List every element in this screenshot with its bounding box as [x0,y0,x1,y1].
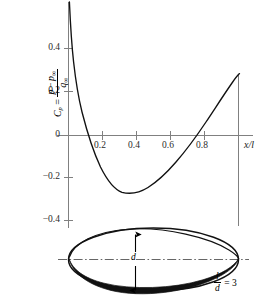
cp-curve [69,2,239,193]
numerator-minus: − [45,82,56,88]
diameter-label: d [131,252,136,262]
x-tick-label-0.6: 0.6 [162,141,174,151]
slenderness-denominator: d [213,283,222,293]
x-axis-label: x/l [244,140,254,150]
denominator-q: q [57,83,68,88]
slenderness-numerator: l [214,272,221,283]
y-tick-label-neg0.4: −0.4 [32,215,60,225]
numerator-p-infinity-subscript: ∞ [50,71,58,76]
x-tick-label-0.8: 0.8 [196,141,208,151]
y-axis-label-denominator: q∞ [58,76,69,90]
y-tick-label-neg0.2: −0.2 [32,172,60,182]
y-axis-label-equals: = [52,99,63,105]
y-axis-label: Cp = p−p∞ q∞ [42,50,72,136]
y-axis-label-symbol-subscript: p [56,107,63,110]
y-axis-label-symbol: C [52,110,63,117]
slenderness-ratio-annotation: l d = 3 [213,272,237,294]
y-axis-label-fraction: p−p∞ q∞ [46,69,69,97]
axis-lines [57,2,253,228]
x-axis-label-denominator: l [251,140,254,150]
x-tick-label-0.2: 0.2 [94,141,106,151]
denominator-q-subscript: ∞ [62,78,70,83]
slenderness-value: 3 [232,278,237,288]
y-axis-label-numerator: p−p∞ [46,69,58,97]
slenderness-equals: = [224,278,229,288]
x-tick-label-0.4: 0.4 [128,141,140,151]
slenderness-fraction: l d [213,272,222,294]
pressure-coefficient-figure: 0.4 0.2 0 −0.2 −0.4 0.2 0.4 0.6 0.8 x/l … [0,0,272,307]
numerator-p-infinity: p [45,76,56,81]
numerator-p: p [45,90,56,95]
